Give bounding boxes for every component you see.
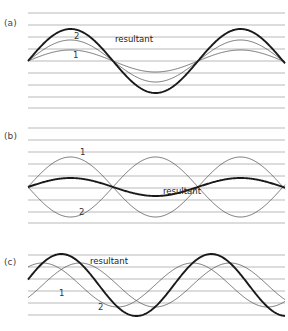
label-wave-2: 2 — [79, 207, 84, 217]
panel-c: (c) 12resultant — [0, 240, 288, 331]
label-resultant: resultant — [90, 256, 129, 266]
curve-wave-1 — [28, 157, 285, 217]
curve-wave-1 — [28, 263, 285, 307]
curve-resultant — [28, 254, 285, 316]
panel-c-svg: 12resultant — [0, 240, 288, 331]
panel-b: (b) 12resultant — [0, 115, 288, 240]
panel-a-labels: 12resultant — [73, 31, 154, 60]
curve-wave-2 — [28, 263, 285, 307]
panel-b-gridlines — [28, 128, 285, 223]
curve-wave-2 — [28, 157, 285, 217]
label-wave-1: 1 — [73, 50, 78, 60]
panel-b-plot: 12resultant — [0, 115, 288, 240]
panel-c-plot: 12resultant — [0, 240, 288, 331]
label-wave-1: 1 — [59, 288, 64, 298]
panel-a: (a) 12resultant — [0, 0, 288, 115]
panel-b-curves — [28, 157, 285, 217]
label-wave-1: 1 — [80, 147, 85, 157]
panel-c-curves — [28, 254, 285, 316]
panel-b-svg: 12resultant — [0, 115, 288, 240]
label-wave-2: 2 — [98, 302, 103, 312]
wave-superposition-figure: (a) 12resultant (b) 12resultant (c) 12re — [0, 0, 288, 331]
label-resultant: resultant — [163, 186, 202, 196]
label-wave-2: 2 — [74, 31, 79, 41]
label-resultant: resultant — [115, 34, 154, 44]
panel-c-labels: 12resultant — [59, 256, 129, 312]
curve-resultant — [28, 178, 285, 196]
panel-a-plot: 12resultant — [0, 0, 288, 115]
panel-a-svg: 12resultant — [0, 0, 288, 115]
